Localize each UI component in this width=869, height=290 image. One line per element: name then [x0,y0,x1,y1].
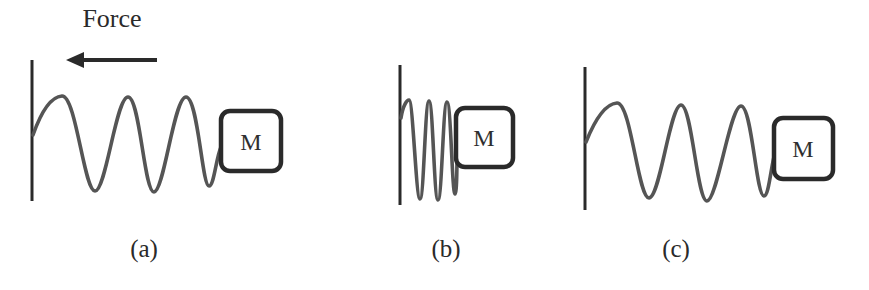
mass-label-a: M [240,129,261,155]
mass-label-c: M [792,136,813,162]
panel-label-a: (a) [130,235,158,263]
mass-label-b: M [473,125,494,151]
spring-a [33,96,221,192]
spring-mass-figure: M M M Force (a) (b) (c) [0,0,869,290]
panel-a: M [32,60,281,201]
panel-label-b: (b) [431,235,460,263]
panel-b: M [400,65,513,205]
panel-c: M [585,67,833,210]
force-label: Force [82,4,141,34]
spring-b [401,100,457,200]
spring-c [586,103,775,201]
panel-label-c: (c) [662,235,690,263]
force-arrow-icon [66,52,157,68]
